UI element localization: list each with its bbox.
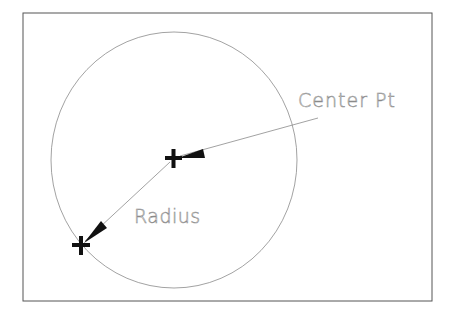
diagram-canvas: Center Pt Radius <box>0 0 454 314</box>
radius-label: Radius <box>134 205 201 227</box>
drawing-frame <box>23 13 432 301</box>
center-cross-icon <box>165 149 182 168</box>
radius-arrowhead-icon <box>84 221 107 243</box>
center-pt-label: Center Pt <box>298 89 396 111</box>
center-arrowhead-icon <box>178 149 205 158</box>
